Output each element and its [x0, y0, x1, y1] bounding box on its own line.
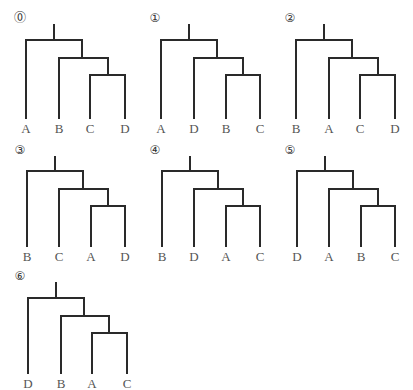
leaf-label: A: [324, 249, 334, 264]
leaf-label: D: [189, 121, 198, 136]
tree-number: ②: [285, 11, 296, 25]
tree-number: ⑥: [15, 269, 26, 283]
tree-5: ⑤ D A B C: [285, 143, 400, 264]
tree-6: ⑥ D B A C: [15, 269, 132, 390]
leaf-label: C: [123, 376, 132, 390]
leaf-label: D: [189, 249, 198, 264]
leaf-label: D: [120, 121, 129, 136]
tree-4: ④ B D A C: [150, 143, 265, 264]
leaf-label: B: [55, 121, 64, 136]
leaf-label: B: [158, 249, 167, 264]
tree-branches: [28, 283, 127, 373]
leaf-label: B: [222, 121, 231, 136]
tree-1: ① A D B C: [150, 11, 265, 136]
tree-3: ③ B C A D: [15, 143, 130, 264]
leaf-label: A: [324, 121, 334, 136]
leaf-label: B: [292, 121, 301, 136]
leaf-label: A: [86, 249, 96, 264]
tree-number: ④: [150, 143, 161, 157]
tree-branches: [162, 157, 260, 246]
tree-number: ③: [15, 143, 26, 157]
leaf-label: D: [292, 249, 301, 264]
leaf-label: A: [221, 249, 231, 264]
tree-number: ①: [150, 11, 161, 25]
tree-number: ⑤: [285, 143, 296, 157]
leaf-label: C: [256, 249, 265, 264]
leaf-label: B: [57, 376, 66, 390]
tree-0: ⓪ A B C D: [14, 11, 130, 136]
tree-number: ⓪: [14, 11, 26, 25]
leaf-label: C: [356, 121, 365, 136]
leaf-label: A: [87, 376, 97, 390]
leaf-label: D: [390, 121, 399, 136]
leaf-label: A: [156, 121, 166, 136]
leaf-label: C: [256, 121, 265, 136]
tree-branches: [296, 25, 395, 118]
leaf-label: C: [55, 249, 64, 264]
phylogenetic-trees-figure: ⓪ A B C D ① A D B C ② B A C D ③ B C A D …: [0, 0, 413, 390]
tree-2: ② B A C D: [285, 11, 400, 136]
leaf-label: B: [357, 249, 366, 264]
leaf-label: D: [23, 376, 32, 390]
tree-branches: [297, 157, 395, 246]
leaf-label: C: [86, 121, 95, 136]
leaf-label: B: [23, 249, 32, 264]
leaf-label: D: [120, 249, 129, 264]
tree-branches: [27, 157, 125, 246]
tree-branches: [161, 25, 260, 118]
leaf-label: C: [391, 249, 400, 264]
leaf-label: A: [21, 121, 31, 136]
tree-branches: [26, 25, 125, 118]
